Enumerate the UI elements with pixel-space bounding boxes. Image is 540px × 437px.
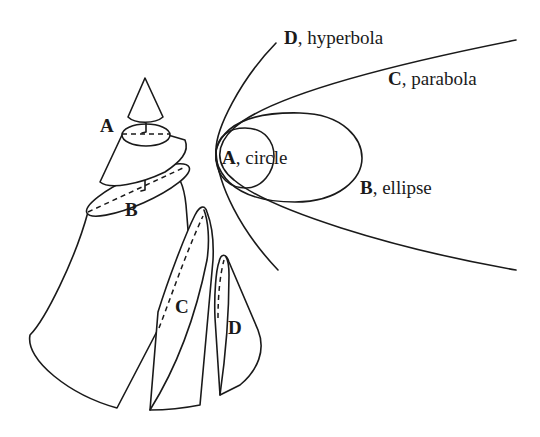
curve-label-circle: A, circle	[222, 148, 287, 167]
cone-label-d: D	[228, 318, 242, 337]
cone-label-b: B	[125, 200, 138, 219]
conic-sections-diagram	[0, 0, 540, 437]
cone-label-c: C	[175, 297, 189, 316]
cone-label-a: A	[100, 116, 114, 135]
cone-tip	[128, 78, 163, 122]
curve-label-ellipse: B, ellipse	[360, 178, 432, 197]
curve-label-parabola: C, parabola	[388, 69, 477, 88]
curve-label-hyperbola: D, hyperbola	[284, 28, 383, 47]
